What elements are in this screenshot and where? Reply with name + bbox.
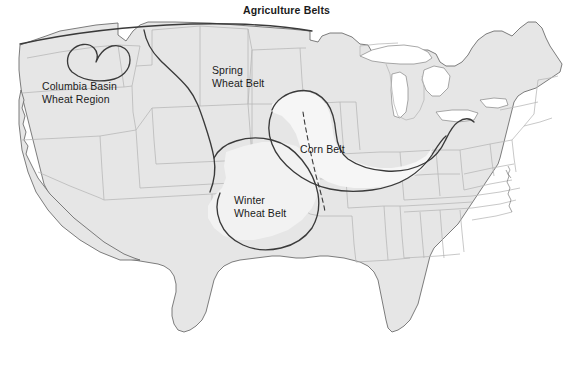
belt-label-columbia-line2: Wheat Region	[42, 93, 110, 105]
belt-label-spring-wheat: SpringWheat Belt	[212, 64, 264, 90]
agriculture-belts-figure: Agriculture Belts	[0, 0, 573, 367]
belt-label-columbia-line1: Columbia Basin	[42, 80, 117, 92]
belt-label-corn: Corn Belt	[300, 143, 345, 156]
belt-label-columbia-basin: Columbia BasinWheat Region	[42, 80, 117, 106]
belt-label-winter-line2: Wheat Belt	[234, 207, 286, 219]
us-map	[0, 0, 573, 367]
lake-michigan	[391, 72, 408, 118]
belt-label-winter-line1: Winter	[234, 194, 265, 206]
belt-label-winter-wheat: WinterWheat Belt	[234, 194, 286, 220]
belt-label-corn-line1: Corn Belt	[300, 143, 345, 155]
belt-label-spring-line1: Spring	[212, 64, 243, 76]
coast-marking	[508, 166, 511, 178]
belt-label-spring-line2: Wheat Belt	[212, 77, 264, 89]
